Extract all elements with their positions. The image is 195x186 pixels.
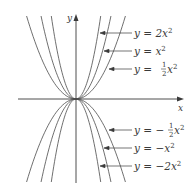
graph-canvas: x y y = 2x2 y = x2 y = 1 2 <box>0 0 195 186</box>
label-y-half-x2-var: x2 <box>167 63 177 75</box>
label-y-half-x2: y = <box>133 63 152 75</box>
label-y-neg-x2: y = −x2 <box>133 142 175 154</box>
label-y-half-x2-den: 2 <box>162 70 166 78</box>
label-y-neg-half-x2: y = − <box>133 124 164 136</box>
parabola-family-figure: x y y = 2x2 y = x2 y = 1 2 <box>0 0 195 186</box>
label-y-neg-half-x2-var: x2 <box>174 124 184 136</box>
x-axis-label: x <box>178 103 183 113</box>
label-y-neg-half-x2-num: 1 <box>169 122 173 130</box>
label-y-x2: y = x2 <box>133 45 166 57</box>
label-y-2x2: y = 2x2 <box>133 27 172 39</box>
label-pointers <box>100 31 132 167</box>
curve-labels: y = 2x2 y = x2 y = 1 2 x2 y = − 1 2 x2 <box>133 27 184 172</box>
x-axis-arrow-icon <box>177 97 184 102</box>
y-axis-label: y <box>66 13 73 23</box>
y-axis-arrow-icon <box>74 14 79 21</box>
label-y-neg-half-x2-den: 2 <box>169 131 173 139</box>
label-y-neg-2x2: y = −2x2 <box>133 160 181 172</box>
label-y-half-x2-num: 1 <box>162 61 166 69</box>
